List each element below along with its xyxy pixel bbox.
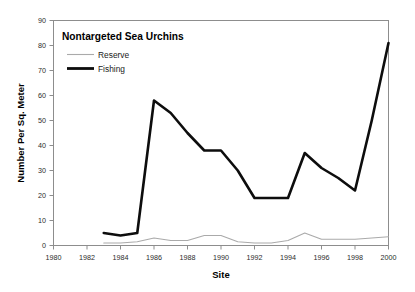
x-tick-label: 2000 [381,253,397,262]
x-tick-label: 1982 [79,253,95,262]
y-tick-label: 30 [38,166,46,175]
legend-label-reserve: Reserve [98,50,130,60]
y-tick-label: 40 [38,141,46,150]
y-tick-label: 70 [38,66,46,75]
y-tick-label: 90 [38,16,46,25]
x-tick-label: 1994 [280,253,296,262]
sea-urchins-line-chart: 0 10 20 30 40 50 60 70 80 90 19 [0,0,415,292]
x-tick-label: 1990 [213,253,229,262]
y-tick-label: 0 [42,241,46,250]
x-axis-title: Site [212,269,229,280]
x-tick-label: 1986 [146,253,162,262]
chart-background [0,0,415,292]
y-tick-label: 80 [38,41,46,50]
x-tick-label: 1998 [347,253,363,262]
x-tick-label: 1984 [113,253,129,262]
x-tick-label: 1988 [180,253,196,262]
x-tick-label: 1992 [247,253,263,262]
chart-title: Nontargeted Sea Urchins [62,31,184,42]
y-tick-label: 10 [38,216,46,225]
x-tick-label: 1996 [314,253,330,262]
y-axis-title: Number Per Sq. Meter [15,83,26,183]
x-tick-label: 1980 [46,253,62,262]
y-tick-label: 20 [38,191,46,200]
legend-label-fishing: Fishing [98,64,125,74]
chart-figure: 0 10 20 30 40 50 60 70 80 90 19 [0,0,415,292]
y-tick-label: 50 [38,116,46,125]
y-tick-label: 60 [38,91,46,100]
